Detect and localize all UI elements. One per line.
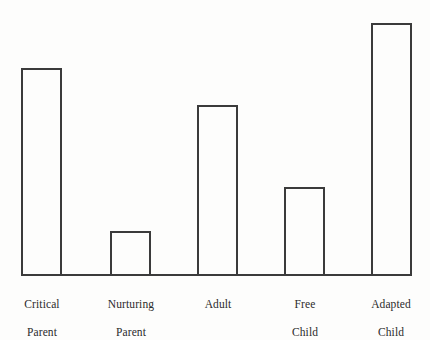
x-tick-label-adult: Adult <box>182 283 254 325</box>
x-tick-label-line: Parent <box>6 325 78 339</box>
x-tick-label-critical-parent: Critical Parent <box>6 283 78 340</box>
x-tick-label-adapted-child: Adapted Child <box>355 283 427 340</box>
x-tick-label-line: Child <box>355 325 427 339</box>
x-tick-label-nurturing-parent: Nurturing Parent <box>95 283 167 340</box>
x-tick-label-free-child: Free Child <box>269 283 341 340</box>
x-tick-label-line: Free <box>269 297 341 311</box>
x-tick-label-line: Critical <box>6 297 78 311</box>
x-tick-label-line: Adapted <box>355 297 427 311</box>
x-tick-label-line: Child <box>269 325 341 339</box>
x-tick-label-line: Adult <box>182 297 254 311</box>
x-tick-label-line: Nurturing <box>95 297 167 311</box>
x-tick-label-line: Parent <box>95 325 167 339</box>
